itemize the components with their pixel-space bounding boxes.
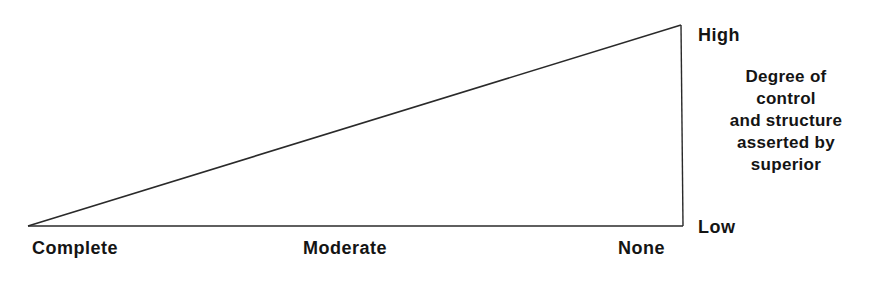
y-axis-title: Degree of control and structure asserted…	[716, 66, 856, 176]
y-axis-title-line-1: Degree of	[716, 66, 856, 88]
x-label-none: None	[618, 238, 665, 259]
y-axis-title-line-4: asserted by	[716, 132, 856, 154]
y-axis-title-line-5: superior	[716, 154, 856, 176]
vertical-line	[681, 25, 683, 226]
y-axis-title-line-3: and structure	[716, 110, 856, 132]
y-label-high: High	[698, 25, 740, 46]
hypotenuse-line	[28, 25, 681, 226]
y-axis-title-line-2: control	[716, 88, 856, 110]
x-label-moderate: Moderate	[303, 238, 387, 259]
x-label-complete: Complete	[32, 238, 118, 259]
y-label-low: Low	[698, 217, 736, 238]
